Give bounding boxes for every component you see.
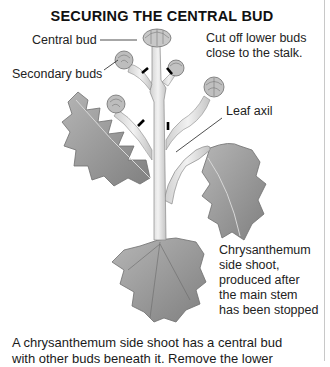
side-shoot-line2: side shoot, — [219, 258, 279, 273]
lower-right-bud — [204, 77, 224, 97]
body-text-line2: with other buds beneath it. Remove the l… — [12, 351, 273, 367]
body-text-line1: A chrysanthemum side shoot has a central… — [12, 335, 282, 351]
label-leaf-axil: Leaf axil — [226, 104, 273, 119]
label-secondary-buds: Secondary buds — [12, 67, 102, 82]
left-leaf — [62, 92, 150, 186]
right-leaf — [202, 143, 266, 240]
side-shoot-line1: Chrysanthemum — [219, 243, 311, 258]
label-central-bud: Central bud — [32, 33, 97, 48]
side-shoot-line4: the main stem — [219, 288, 298, 303]
instruction-line2: close to the stalk. — [206, 46, 303, 61]
central-bud — [143, 29, 171, 47]
page-border — [324, 0, 325, 361]
side-shoot-line3: produced after — [219, 273, 300, 288]
bottom-leaf — [112, 238, 206, 322]
document-page: SECURING THE CENTRAL BUD — [0, 0, 324, 361]
instruction-line1: Cut off lower buds — [206, 31, 307, 46]
lower-left-bud — [107, 95, 125, 113]
side-shoot-line5: has been stopped — [219, 303, 318, 318]
